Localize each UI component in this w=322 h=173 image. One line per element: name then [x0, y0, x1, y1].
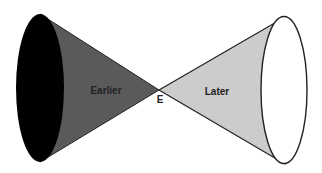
earlier-label: Earlier	[90, 85, 121, 96]
later-label: Later	[205, 86, 230, 97]
cone-diagram: Earlier Later E	[0, 0, 322, 173]
event-label: E	[157, 94, 164, 105]
earlier-cone-cap	[16, 14, 64, 162]
later-cone-cap	[261, 17, 307, 164]
